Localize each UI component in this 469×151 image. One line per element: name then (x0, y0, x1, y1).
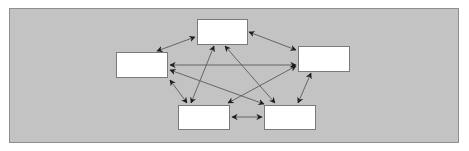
node-bottom-left (178, 105, 230, 130)
edge-top-right (249, 32, 296, 50)
edge-top-left (157, 37, 195, 51)
node-bottom-right (264, 105, 316, 130)
node-top (197, 19, 248, 45)
edge-top-bottomright (225, 46, 275, 103)
edge-bottomleft-right (228, 66, 296, 103)
edge-left-bottomleft (170, 80, 187, 103)
edge-right-bottomright (298, 73, 311, 103)
node-left (116, 52, 168, 78)
node-right (298, 46, 350, 72)
edge-bottomleft-top (191, 46, 214, 103)
